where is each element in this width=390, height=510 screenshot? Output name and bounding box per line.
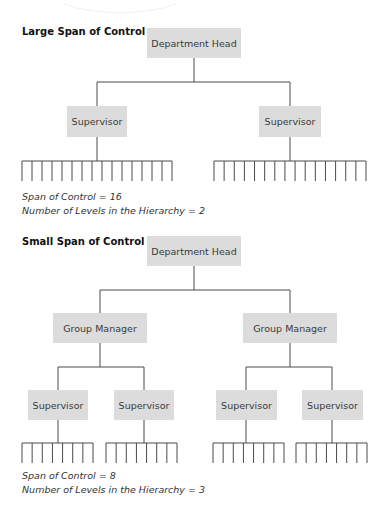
span-of-control-note: Span of Control = 8 <box>22 470 116 481</box>
large-span-title: Large Span of Control <box>22 26 145 37</box>
supervisor-box: Supervisor <box>67 106 127 137</box>
supervisor-box: Supervisor <box>302 390 363 420</box>
hierarchy-levels-note: Number of Levels in the Hierarchy = 2 <box>22 205 205 216</box>
supervisor-box: Supervisor <box>216 390 277 420</box>
supervisor-box: Supervisor <box>259 106 321 137</box>
span-of-control-note: Span of Control = 16 <box>22 191 122 202</box>
group-manager-box: Group Manager <box>243 313 337 343</box>
group-manager-box: Group Manager <box>53 313 147 343</box>
department-head-box: Department Head <box>147 236 241 266</box>
hierarchy-levels-note: Number of Levels in the Hierarchy = 3 <box>22 484 205 495</box>
supervisor-box: Supervisor <box>28 390 88 420</box>
small-span-title: Small Span of Control <box>22 236 144 247</box>
department-head-box: Department Head <box>147 28 241 58</box>
supervisor-box: Supervisor <box>114 390 174 420</box>
